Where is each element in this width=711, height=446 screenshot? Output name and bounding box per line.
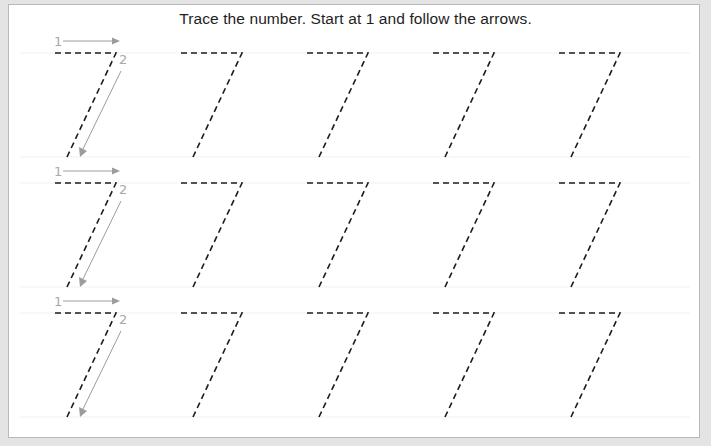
step-2-label: 2 <box>119 52 127 67</box>
tracing-row: 12 <box>20 34 690 157</box>
step-2-label: 2 <box>119 182 127 197</box>
step-2-label: 2 <box>119 312 127 327</box>
dashed-seven-1-5[interactable] <box>559 53 620 157</box>
dashed-seven-2-1[interactable] <box>55 183 116 287</box>
step-1-label: 1 <box>54 294 62 309</box>
dashed-seven-1-4[interactable] <box>433 53 494 157</box>
dashed-seven-3-5[interactable] <box>559 313 620 417</box>
dashed-seven-3-3[interactable] <box>307 313 368 417</box>
step-1-label: 1 <box>54 164 62 179</box>
dashed-seven-1-2[interactable] <box>181 53 242 157</box>
dashed-seven-2-2[interactable] <box>181 183 242 287</box>
tracing-area: 121212 <box>0 0 711 446</box>
dashed-seven-2-3[interactable] <box>307 183 368 287</box>
tracing-row: 12 <box>20 294 690 417</box>
dashed-seven-2-4[interactable] <box>433 183 494 287</box>
tracing-row: 12 <box>20 164 690 287</box>
dashed-seven-2-5[interactable] <box>559 183 620 287</box>
step-1-label: 1 <box>54 34 62 49</box>
dashed-seven-3-1[interactable] <box>55 313 116 417</box>
dashed-seven-1-1[interactable] <box>55 53 116 157</box>
dashed-seven-1-3[interactable] <box>307 53 368 157</box>
dashed-seven-3-2[interactable] <box>181 313 242 417</box>
dashed-seven-3-4[interactable] <box>433 313 494 417</box>
